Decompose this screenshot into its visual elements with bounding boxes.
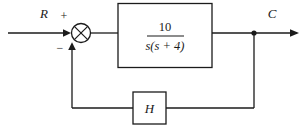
input-arrow-head: [63, 29, 71, 37]
transfer-function-numerator: 10: [159, 20, 172, 34]
feedback-block-label: H: [144, 101, 155, 116]
diagram-canvas: R C + − 10 s(s + 4) H: [0, 0, 308, 135]
summing-junction-minus-sign: −: [57, 41, 64, 55]
input-signal-label: R: [39, 6, 48, 21]
block-diagram-figure: R C + − 10 s(s + 4) H: [0, 0, 308, 135]
summing-junction-plus-sign: +: [61, 9, 68, 23]
transfer-function-denominator: s(s + 4): [146, 39, 185, 53]
output-arrow-head: [290, 29, 299, 37]
output-signal-label: C: [268, 6, 277, 21]
feedback-arrow-head: [68, 42, 76, 50]
